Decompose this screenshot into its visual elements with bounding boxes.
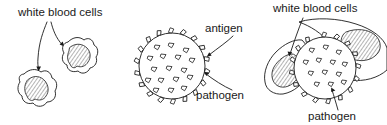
label-white-blood-cells-left: white blood cells xyxy=(17,6,103,18)
panel-middle: antigen pathogen xyxy=(134,22,244,104)
label-white-blood-cells-right: white blood cells xyxy=(272,2,358,14)
antigen-spike xyxy=(325,99,330,104)
antigen-spike xyxy=(168,28,173,33)
antigen-spike xyxy=(170,99,175,104)
leader-line-antigen xyxy=(209,36,233,55)
antigen-spike xyxy=(134,58,140,64)
arrowhead-antigen xyxy=(207,52,212,57)
cell-nucleus xyxy=(25,77,48,101)
white-blood-cell-left-upper xyxy=(62,38,97,74)
panel-right: white blood cells pathogen xyxy=(265,2,387,122)
biology-diagram: white blood cells xyxy=(0,0,387,125)
leader-line-wbc-left-lower xyxy=(38,22,47,69)
cell-nucleus xyxy=(68,44,91,67)
label-pathogen-right: pathogen xyxy=(308,110,356,122)
label-pathogen-middle: pathogen xyxy=(196,89,244,101)
leader-line-pathogen-middle xyxy=(206,74,232,90)
diagram-canvas: white blood cells xyxy=(0,0,387,125)
panel-left: white blood cells xyxy=(17,6,103,106)
white-blood-cell-left-lower xyxy=(18,70,57,107)
label-antigen: antigen xyxy=(205,22,243,34)
leader-line-wbc-left-upper xyxy=(51,22,62,45)
